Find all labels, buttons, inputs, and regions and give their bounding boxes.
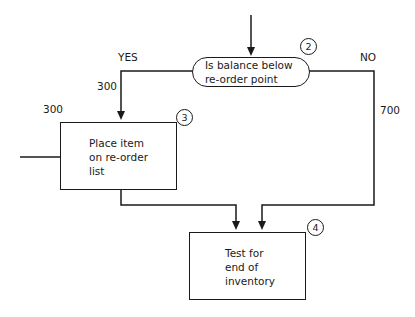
reorder-in-count-label: 300 (43, 103, 63, 115)
reorder-line-1: Place item (89, 136, 148, 150)
reorder-line-2: on re-order (89, 150, 148, 164)
no-count-label: 700 (380, 104, 400, 116)
reorder-to-test-line (121, 190, 236, 222)
yes-count-label: 300 (97, 80, 117, 92)
test-line-2: end of (225, 260, 275, 274)
node-number-2: 2 (300, 38, 317, 55)
no-label: NO (360, 51, 376, 63)
test-line-3: inventory (225, 274, 275, 288)
yes-label: YES (118, 51, 138, 63)
reorder-line-3: list (89, 164, 148, 178)
decision-line-2: re-order point (205, 72, 293, 86)
decision-line-1: Is balance below (205, 58, 293, 72)
reorder-text: Place item on re-order list (89, 136, 148, 178)
decision-text: Is balance below re-order point (205, 58, 293, 86)
node-number-3: 3 (176, 109, 193, 126)
yes-branch-line (121, 71, 193, 112)
node-number-4: 4 (307, 219, 324, 236)
no-branch-line (262, 71, 374, 222)
test-text: Test for end of inventory (225, 246, 275, 288)
cropped-top-text: ▔▔▔▔▔▔▔▔▔▔▔▔▔ (222, 0, 345, 5)
test-line-1: Test for (225, 246, 275, 260)
